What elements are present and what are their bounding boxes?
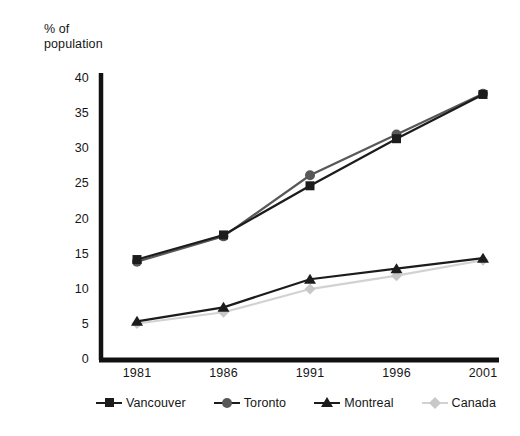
legend-item-toronto: Toronto	[214, 396, 286, 410]
legend-item-canada: Canada	[422, 396, 496, 410]
chart-legend: Vancouver Toronto Montreal Canada	[96, 396, 496, 410]
y-axis-tick-label: 20	[55, 212, 89, 226]
legend-label-toronto: Toronto	[244, 396, 286, 410]
chart-series-toronto	[132, 89, 488, 267]
legend-label-canada: Canada	[452, 396, 496, 410]
legend-marker-diamond-icon	[422, 396, 448, 410]
legend-marker-triangle-icon	[314, 396, 340, 410]
y-axis-tick-label: 30	[55, 141, 89, 155]
y-axis-tick-label: 0	[55, 352, 89, 366]
chart-figure: % of population Vancouver Toronto Montre…	[0, 0, 520, 436]
legend-marker-circle-icon	[214, 396, 240, 410]
x-axis-tick-label: 1996	[367, 366, 427, 380]
legend-label-montreal: Montreal	[344, 396, 393, 410]
legend-item-montreal: Montreal	[314, 396, 393, 410]
y-axis-tick-label: 5	[55, 317, 89, 331]
x-axis-tick-label: 1991	[280, 366, 340, 380]
y-axis-tick-label: 40	[55, 71, 89, 85]
y-axis-tick-label: 35	[55, 106, 89, 120]
x-axis-tick-label: 1981	[107, 366, 167, 380]
y-axis-tick-label: 25	[55, 176, 89, 190]
x-axis-tick-label: 1986	[194, 366, 254, 380]
chart-series-canada	[132, 255, 489, 329]
y-axis-tick-label: 10	[55, 282, 89, 296]
x-axis-tick-label: 2001	[453, 366, 513, 380]
legend-item-vancouver: Vancouver	[96, 396, 186, 410]
y-axis-tick-label: 15	[55, 247, 89, 261]
legend-label-vancouver: Vancouver	[126, 396, 186, 410]
legend-marker-square-icon	[96, 396, 122, 410]
